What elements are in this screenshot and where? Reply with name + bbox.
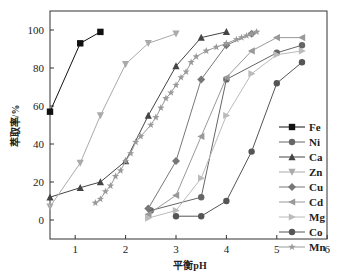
svg-text:Cd: Cd bbox=[309, 196, 323, 208]
y-tick-label: 40 bbox=[33, 138, 45, 150]
x-tick-label: 2 bbox=[123, 243, 129, 255]
extraction-rate-chart: 020406080100 123456 FeNiCaZnCuCdMgCoMn 萃… bbox=[0, 0, 338, 279]
legend-item-mg: Mg bbox=[279, 211, 325, 223]
legend-item-ca: Ca bbox=[279, 151, 323, 163]
svg-text:Mg: Mg bbox=[309, 211, 325, 223]
x-axis-label: 平衡pH bbox=[173, 259, 207, 271]
series-zn bbox=[46, 31, 179, 211]
series-fe bbox=[47, 29, 104, 115]
legend-item-ni: Ni bbox=[279, 136, 320, 148]
svg-text:Cu: Cu bbox=[309, 181, 323, 193]
legend-item-cu: Cu bbox=[279, 181, 323, 193]
x-tick-label: 5 bbox=[274, 243, 280, 255]
series-ni bbox=[148, 42, 306, 214]
series-mn bbox=[92, 28, 261, 206]
series-cd bbox=[144, 34, 305, 218]
legend-item-co: Co bbox=[279, 226, 323, 238]
y-axis-label: 萃取率/% bbox=[9, 105, 21, 148]
svg-text:Co: Co bbox=[309, 226, 323, 238]
y-tick-label: 0 bbox=[39, 214, 45, 226]
y-tick-label: 20 bbox=[33, 176, 45, 188]
legend-item-cd: Cd bbox=[279, 196, 323, 208]
svg-text:Fe: Fe bbox=[309, 121, 321, 133]
series-mg bbox=[145, 47, 306, 221]
series-co bbox=[173, 59, 305, 219]
data-series bbox=[46, 28, 305, 222]
series-cu bbox=[144, 30, 255, 213]
legend-item-fe: Fe bbox=[279, 121, 321, 133]
svg-text:Ni: Ni bbox=[309, 136, 320, 148]
y-tick-label: 80 bbox=[33, 62, 45, 74]
svg-text:Mn: Mn bbox=[309, 241, 326, 253]
svg-text:Zn: Zn bbox=[309, 166, 322, 178]
svg-text:Ca: Ca bbox=[309, 151, 323, 163]
legend: FeNiCaZnCuCdMgCoMn bbox=[279, 121, 326, 253]
x-tick-label: 3 bbox=[173, 243, 179, 255]
legend-item-mn: Mn bbox=[279, 241, 326, 253]
x-tick-label: 4 bbox=[224, 243, 230, 255]
legend-item-zn: Zn bbox=[279, 166, 322, 178]
plot-frame bbox=[50, 11, 327, 239]
y-tick-label: 100 bbox=[28, 24, 45, 36]
y-tick-label: 60 bbox=[33, 100, 45, 112]
x-tick-label: 1 bbox=[72, 243, 78, 255]
